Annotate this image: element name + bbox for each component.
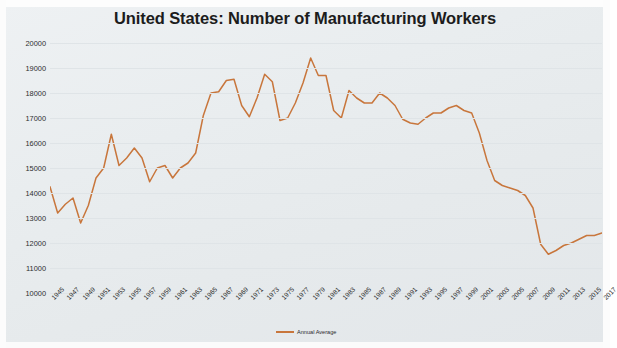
y-axis-tick-label: 14000	[14, 189, 46, 198]
gridline	[50, 93, 602, 94]
gridline	[50, 243, 602, 244]
y-axis-tick-label: 18000	[14, 89, 46, 98]
legend-label: Annual Average	[297, 329, 336, 335]
y-axis-tick-label: 15000	[14, 164, 46, 173]
y-axis-tick-label: 20000	[14, 39, 46, 48]
y-axis-tick-label: 17000	[14, 114, 46, 123]
gridline	[50, 43, 602, 44]
y-axis-tick-label: 11000	[14, 264, 46, 273]
left-margin-band	[0, 0, 6, 348]
gridline	[50, 268, 602, 269]
gridline	[50, 193, 602, 194]
series-line-annual-average	[50, 58, 602, 254]
chart-title: United States: Number of Manufacturing W…	[0, 9, 610, 28]
chart-legend: Annual Average	[276, 329, 336, 335]
gridline	[50, 68, 602, 69]
gridline	[50, 143, 602, 144]
legend-color-swatch	[276, 331, 294, 333]
y-axis-tick-label: 19000	[14, 64, 46, 73]
y-axis-tick-label: 13000	[14, 214, 46, 223]
gridline	[50, 218, 602, 219]
plot-area	[50, 43, 602, 293]
gridline	[50, 118, 602, 119]
y-axis-tick-label: 10000	[14, 289, 46, 298]
gridline	[50, 168, 602, 169]
y-axis-tick-label: 12000	[14, 239, 46, 248]
y-axis-tick-label: 16000	[14, 139, 46, 148]
